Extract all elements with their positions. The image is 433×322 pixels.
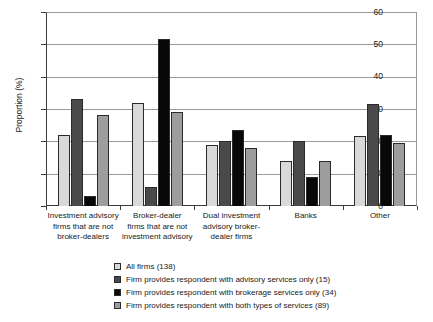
legend-label: All firms (138) [126,260,175,273]
bar [280,161,292,206]
bar [206,145,218,206]
x-axis-tick-mark [120,206,121,210]
bar-group [343,12,417,206]
bar-chart: Proportion (%) 0102030405060 Investment … [0,0,433,322]
y-axis-title: Proportion (%) [14,50,24,160]
x-axis-label-line: Other [335,211,425,222]
legend-swatch [114,263,121,270]
bar [132,103,144,206]
legend-label: Firm provides respondent with both types… [126,299,329,312]
x-axis-tick-mark [269,206,270,210]
bar [245,148,257,206]
bar-groups [46,12,417,206]
legend-item: All firms (138) [114,260,336,273]
bar-group [120,12,194,206]
x-axis-label-line: advisory broker- [186,222,276,233]
bar [219,141,231,206]
bar [84,196,96,206]
bar [145,187,157,206]
bar [293,141,305,206]
bar [306,177,318,206]
legend-item: Firm provides respondent with both types… [114,299,336,312]
bar [58,135,70,206]
x-axis-tick-mark [343,206,344,210]
bar-group [194,12,268,206]
x-axis-tick-mark [46,206,47,210]
bar-group [46,12,120,206]
legend-label: Firm provides respondent with advisory s… [126,273,330,286]
bar [71,99,83,206]
chart-legend: All firms (138)Firm provides respondent … [114,260,336,312]
bar [367,104,379,206]
bar [393,143,405,206]
bar [380,135,392,206]
x-axis-tick-label: Other [335,211,425,222]
legend-swatch [114,302,121,309]
legend-item: Firm provides respondent with advisory s… [114,273,336,286]
legend-swatch [114,276,121,283]
bar [354,136,366,206]
bar-group [269,12,343,206]
legend-swatch [114,289,121,296]
x-axis-label-line: dealer firms [186,232,276,243]
legend-label: Firm provides respondent with brokerage … [126,286,336,299]
bar [158,39,170,206]
legend-item: Firm provides respondent with brokerage … [114,286,336,299]
bar [171,112,183,206]
bar [232,130,244,206]
bar [319,161,331,206]
x-axis-tick-mark [417,206,418,210]
x-axis-tick-mark [194,206,195,210]
bar [97,115,109,206]
